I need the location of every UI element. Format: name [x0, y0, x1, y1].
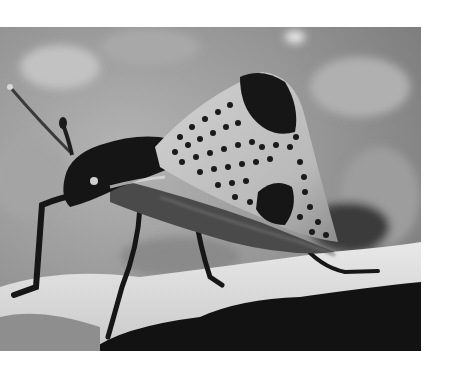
page-canvas [0, 0, 451, 379]
insect-photo [0, 27, 421, 351]
eye [90, 177, 98, 185]
caption-area [40, 356, 410, 370]
insect-illustration [0, 27, 421, 351]
